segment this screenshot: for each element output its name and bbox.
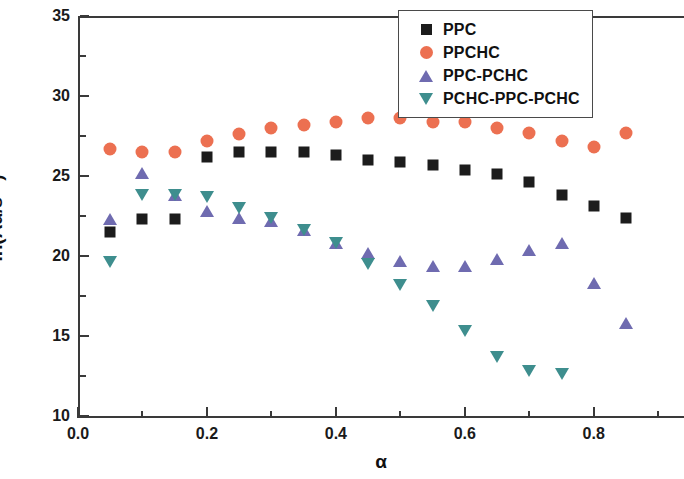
data-point bbox=[264, 212, 278, 224]
data-point bbox=[168, 189, 182, 201]
plot-area: 101520253035 0.00.20.40.60.8 bbox=[78, 16, 684, 418]
data-point bbox=[458, 325, 472, 337]
x-tick-label: 0.4 bbox=[325, 425, 347, 443]
x-tick-minor bbox=[270, 411, 272, 418]
y-tick-minor bbox=[80, 215, 86, 217]
axis-top-spine bbox=[78, 16, 684, 18]
data-point bbox=[587, 141, 600, 154]
data-point bbox=[458, 260, 472, 272]
data-point bbox=[555, 368, 569, 380]
data-point bbox=[200, 205, 214, 217]
data-point bbox=[393, 279, 407, 291]
data-point bbox=[362, 112, 375, 125]
y-tick-major bbox=[80, 175, 89, 177]
data-point bbox=[135, 167, 149, 179]
legend-marker-square-icon bbox=[409, 24, 443, 35]
y-tick-major bbox=[80, 15, 89, 17]
data-point bbox=[363, 155, 374, 166]
legend-marker-triangle-up-icon bbox=[409, 70, 443, 82]
data-point bbox=[201, 151, 212, 162]
legend-item[interactable]: PPC-PCHC bbox=[409, 64, 580, 87]
y-axis-title: ln(Aα/s⁻¹) bbox=[0, 174, 7, 261]
data-point bbox=[522, 365, 536, 377]
data-point bbox=[523, 126, 536, 139]
data-point bbox=[234, 147, 245, 158]
data-point bbox=[555, 237, 569, 249]
y-tick-minor bbox=[80, 375, 86, 377]
data-point bbox=[168, 146, 181, 159]
x-tick-label: 0.0 bbox=[67, 425, 89, 443]
legend-item[interactable]: PPCHC bbox=[409, 41, 580, 64]
x-tick-major bbox=[77, 407, 79, 418]
y-axis-title-text: ln(Aα/s⁻¹) bbox=[0, 174, 6, 261]
x-tick-minor bbox=[657, 411, 659, 418]
data-point bbox=[103, 213, 117, 225]
x-tick-minor bbox=[141, 411, 143, 418]
data-point bbox=[169, 214, 180, 225]
y-tick-label: 10 bbox=[52, 407, 70, 425]
data-point bbox=[104, 142, 117, 155]
data-point bbox=[426, 260, 440, 272]
data-point bbox=[587, 277, 601, 289]
x-axis-title: α bbox=[375, 451, 387, 473]
data-point bbox=[330, 150, 341, 161]
data-point bbox=[233, 128, 246, 141]
data-point bbox=[329, 237, 343, 249]
legend-item-label: PPC bbox=[443, 21, 477, 39]
data-point bbox=[620, 212, 631, 223]
y-tick-minor bbox=[80, 135, 86, 137]
data-point bbox=[361, 258, 375, 270]
data-point bbox=[459, 164, 470, 175]
data-point bbox=[103, 256, 117, 268]
x-axis-title-text: α bbox=[375, 451, 387, 472]
data-point bbox=[200, 191, 214, 203]
chart-legend: PPCPPCHCPPC-PCHCPCHC-PPC-PCHC bbox=[398, 10, 593, 118]
scatter-chart-figure: ln(Aα/s⁻¹) α 101520253035 0.00.20.40.60.… bbox=[0, 0, 684, 479]
data-point bbox=[556, 190, 567, 201]
legend-item-label: PCHC-PPC-PCHC bbox=[443, 90, 580, 108]
data-point bbox=[266, 147, 277, 158]
data-point bbox=[522, 244, 536, 256]
y-tick-major bbox=[80, 255, 89, 257]
legend-item-label: PPC-PCHC bbox=[443, 67, 528, 85]
data-point bbox=[524, 177, 535, 188]
data-point bbox=[200, 134, 213, 147]
y-tick-label: 35 bbox=[52, 7, 70, 25]
axis-left-spine bbox=[78, 16, 80, 418]
legend-item[interactable]: PCHC-PPC-PCHC bbox=[409, 87, 580, 110]
x-tick-label: 0.8 bbox=[583, 425, 605, 443]
legend-marker-circle-icon bbox=[409, 46, 443, 59]
y-tick-minor bbox=[80, 55, 86, 57]
data-point bbox=[619, 317, 633, 329]
data-point bbox=[588, 201, 599, 212]
y-tick-major bbox=[80, 335, 89, 337]
x-tick-major bbox=[593, 407, 595, 418]
data-point bbox=[395, 156, 406, 167]
x-tick-minor bbox=[399, 411, 401, 418]
x-tick-major bbox=[464, 407, 466, 418]
legend-item-label: PPCHC bbox=[443, 44, 500, 62]
legend-item[interactable]: PPC bbox=[409, 18, 580, 41]
data-point bbox=[136, 146, 149, 159]
x-tick-major bbox=[206, 407, 208, 418]
x-tick-label: 0.6 bbox=[454, 425, 476, 443]
data-point bbox=[490, 351, 504, 363]
y-tick-major bbox=[80, 95, 89, 97]
data-point bbox=[427, 159, 438, 170]
x-tick-minor bbox=[528, 411, 530, 418]
data-point bbox=[137, 214, 148, 225]
data-point bbox=[490, 253, 504, 265]
data-point bbox=[135, 189, 149, 201]
x-tick-major bbox=[335, 407, 337, 418]
data-point bbox=[619, 126, 632, 139]
data-point bbox=[491, 122, 504, 135]
data-point bbox=[393, 255, 407, 267]
y-tick-label: 30 bbox=[52, 87, 70, 105]
data-point bbox=[361, 247, 375, 259]
x-tick-label: 0.2 bbox=[196, 425, 218, 443]
data-point bbox=[329, 115, 342, 128]
data-point bbox=[297, 118, 310, 131]
data-point bbox=[426, 300, 440, 312]
data-point bbox=[298, 147, 309, 158]
y-tick-minor bbox=[80, 295, 86, 297]
